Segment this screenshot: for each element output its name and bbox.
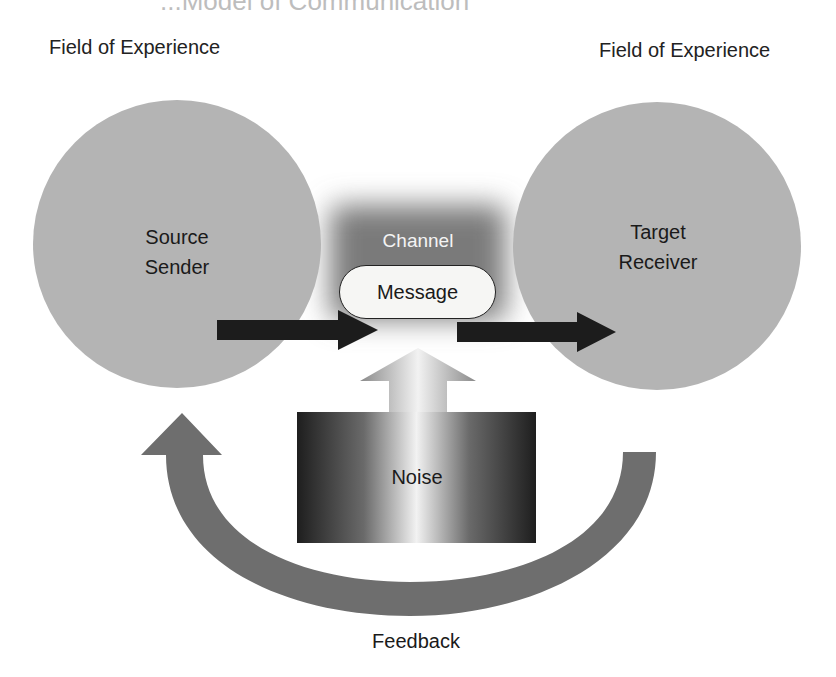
source-label: Source <box>117 222 237 252</box>
source-sender-label: Source Sender <box>117 222 237 282</box>
message-label: Message <box>377 281 458 304</box>
noise-label: Noise <box>357 466 477 489</box>
field-of-experience-right-label: Field of Experience <box>599 39 770 62</box>
diagram-canvas <box>0 0 836 677</box>
receiver-label: Receiver <box>598 247 718 277</box>
field-of-experience-left-label: Field of Experience <box>49 36 220 59</box>
channel-label: Channel <box>358 230 478 252</box>
message-box: Message <box>339 265 496 319</box>
target-receiver-label: Target Receiver <box>598 217 718 277</box>
target-label: Target <box>598 217 718 247</box>
sender-label: Sender <box>117 252 237 282</box>
page-title: ...Model of Communication <box>160 0 469 17</box>
noise-arrow-icon <box>360 348 476 412</box>
feedback-label: Feedback <box>356 630 476 653</box>
